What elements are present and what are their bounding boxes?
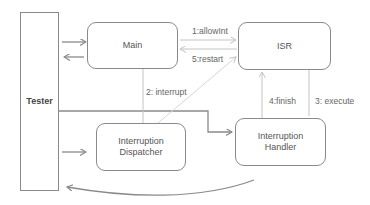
dispatcher-label-line2: Dispatcher bbox=[119, 147, 162, 158]
isr-node: ISR bbox=[238, 22, 331, 70]
edge-label-finish: 4:finish bbox=[268, 96, 297, 106]
main-node: Main bbox=[87, 22, 178, 69]
handler-label-line2: Handler bbox=[265, 142, 297, 153]
isr-label: ISR bbox=[277, 41, 292, 52]
sequence-diagram: Tester Main ISR Interruption Dispatcher … bbox=[0, 0, 370, 205]
interruption-handler-node: Interruption Handler bbox=[235, 118, 326, 166]
tester-node: Tester bbox=[20, 12, 59, 191]
edge-label-interrupt: 2: interrupt bbox=[145, 87, 188, 97]
edge-label-allowint: 1:allowInt bbox=[191, 26, 229, 36]
edge-label-execute: 3: execute bbox=[314, 96, 355, 106]
main-label: Main bbox=[123, 40, 143, 51]
edge-label-restart: 5:restart bbox=[191, 54, 224, 64]
interruption-dispatcher-node: Interruption Dispatcher bbox=[96, 123, 186, 171]
tester-label: Tester bbox=[26, 96, 52, 107]
arrow-handler-to-tester bbox=[67, 180, 254, 195]
handler-label-line1: Interruption bbox=[258, 131, 304, 142]
dispatcher-label-line1: Interruption bbox=[118, 136, 164, 147]
